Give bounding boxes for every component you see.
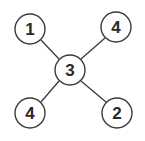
tree-diagram: 1 4 3 4 2 bbox=[0, 0, 145, 141]
diagram-canvas: 1 4 3 4 2 bbox=[0, 0, 145, 141]
node-center: 3 bbox=[55, 55, 85, 85]
node-top-right: 4 bbox=[101, 12, 131, 42]
node-label: 4 bbox=[111, 18, 121, 37]
node-label: 2 bbox=[112, 104, 121, 123]
node-label: 4 bbox=[25, 104, 35, 123]
edge-center-bottom-right bbox=[81, 81, 106, 102]
node-label: 3 bbox=[65, 61, 74, 80]
edge-center-bottom-left bbox=[41, 81, 59, 102]
edge-center-top-right bbox=[81, 38, 105, 59]
edge-center-top-left bbox=[41, 40, 59, 59]
node-bottom-right: 2 bbox=[102, 98, 132, 128]
node-bottom-left: 4 bbox=[15, 98, 45, 128]
node-top-left: 1 bbox=[15, 14, 45, 44]
node-label: 1 bbox=[25, 20, 34, 39]
